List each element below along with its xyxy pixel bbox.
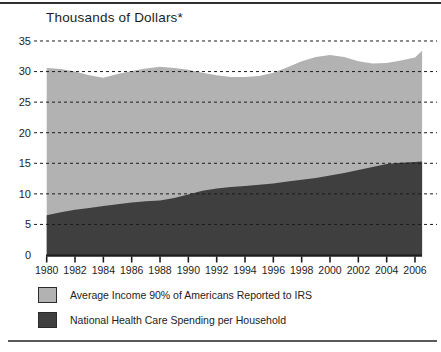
x-axis-label: 2000 — [318, 264, 342, 276]
bottom-rule — [8, 340, 437, 342]
x-axis-label: 1980 — [35, 264, 59, 276]
x-axis-label: 1982 — [63, 264, 87, 276]
chart-figure: Thousands of Dollars* 198019821984198619… — [0, 0, 441, 352]
y-axis-label: 25 — [19, 96, 31, 108]
legend-label-income: Average Income 90% of Americans Reported… — [70, 289, 312, 301]
x-axis-label: 1984 — [92, 264, 116, 276]
legend: Average Income 90% of Americans Reported… — [38, 287, 312, 337]
x-axis-label: 2002 — [347, 264, 371, 276]
health-swatch — [38, 312, 57, 328]
legend-item-health: National Health Care Spending per Househ… — [38, 312, 312, 327]
y-axis-label: 35 — [19, 35, 31, 47]
x-axis-label: 1996 — [262, 264, 286, 276]
y-axis-label: 20 — [19, 127, 31, 139]
y-axis-label: 10 — [19, 188, 31, 200]
y-axis-label: 5 — [25, 218, 31, 230]
x-axis-label: 1988 — [148, 264, 172, 276]
y-axis-label: 0 — [25, 249, 31, 261]
income-swatch — [38, 287, 57, 303]
x-axis-label: 1990 — [177, 264, 201, 276]
y-axis-label: 15 — [19, 157, 31, 169]
legend-item-income: Average Income 90% of Americans Reported… — [38, 287, 312, 302]
x-axis-label: 1994 — [233, 264, 257, 276]
x-axis-label: 1998 — [290, 264, 314, 276]
legend-label-health: National Health Care Spending per Househ… — [70, 314, 286, 326]
x-axis-label: 1986 — [120, 264, 144, 276]
y-axis-label: 30 — [19, 65, 31, 77]
x-axis-label: 2006 — [403, 264, 427, 276]
x-axis-label: 1992 — [205, 264, 229, 276]
x-axis-label: 2004 — [375, 264, 399, 276]
